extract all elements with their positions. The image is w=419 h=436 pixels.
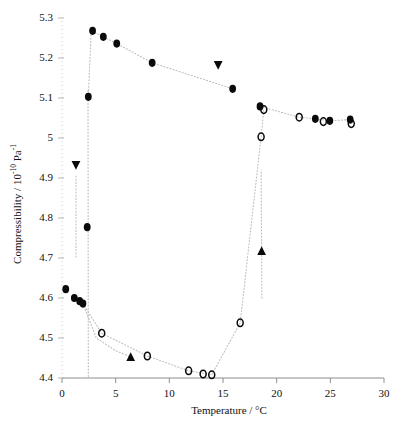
filled-circles-branch-point-0	[62, 285, 69, 293]
y-tick-label-5.2: 5.2	[39, 51, 53, 63]
x-tick-label-20: 20	[271, 387, 283, 399]
open-circles-branch-point-9	[320, 118, 326, 126]
filled-circles-branch-point-13	[326, 117, 333, 125]
y-tick-label-5: 5	[48, 131, 54, 143]
x-tick-label-30: 30	[379, 387, 391, 399]
connector-lower-open-trace	[83, 110, 264, 375]
x-tick-label-5: 5	[113, 387, 119, 399]
x-tick-label-10: 10	[164, 387, 176, 399]
filled-circles-branch-point-4	[84, 223, 91, 231]
connector-right-plateau-trace	[260, 106, 350, 120]
plot-area: 0510152025304.44.54.64.74.84.955.15.25.3…	[0, 0, 419, 436]
filled-circles-branch-point-7	[100, 33, 107, 41]
y-tick-label-4.7: 4.7	[39, 251, 53, 263]
y-tick-label-5.1: 5.1	[39, 91, 53, 103]
y-axis-title: Compressibility / 10-10 Pa-1	[9, 144, 23, 264]
filled-circles-branch-point-5	[85, 93, 92, 101]
y-axis-title-group: Compressibility / 10-10 Pa-1	[9, 144, 23, 264]
y-tick-label-4.8: 4.8	[39, 211, 53, 223]
up-triangles-point-0	[126, 352, 135, 361]
x-tick-label-15: 15	[218, 387, 230, 399]
down-triangles-point-1	[214, 61, 223, 70]
filled-circles-branch-point-9	[149, 59, 156, 67]
connector-lower-filled-tail	[83, 304, 131, 357]
x-axis-title: Temperature / °C	[191, 404, 267, 416]
filled-circles-branch-point-8	[113, 40, 120, 48]
compressibility-vs-temperature-chart: 0510152025304.44.54.64.74.84.955.15.25.3…	[0, 0, 419, 436]
y-tick-label-4.4: 4.4	[39, 371, 53, 383]
x-tick-label-25: 25	[325, 387, 337, 399]
filled-circles-branch-point-3	[80, 300, 87, 308]
filled-circles-branch-point-10	[229, 85, 236, 93]
down-triangles-point-0	[72, 161, 81, 170]
y-tick-label-4.9: 4.9	[39, 171, 53, 183]
up-triangles-point-1	[257, 246, 266, 255]
connector-upper-filled-trace	[88, 31, 232, 97]
y-tick-label-5.3: 5.3	[39, 11, 53, 23]
connector-triangle-riser	[261, 170, 262, 298]
filled-circles-branch-point-6	[89, 27, 96, 35]
y-tick-label-4.6: 4.6	[39, 291, 53, 303]
filled-circles-branch-point-12	[312, 115, 319, 123]
y-tick-label-4.5: 4.5	[39, 331, 53, 343]
x-tick-label-0: 0	[59, 387, 65, 399]
